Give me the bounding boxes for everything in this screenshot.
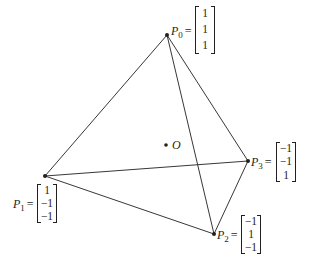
vertex-p3-label: P3= — [251, 156, 272, 171]
vertex-p2-subscript: 2 — [224, 234, 229, 244]
equals-sign: = — [265, 155, 272, 169]
vertex-p2-label: P2= — [217, 229, 238, 244]
edge-p0-p1 — [45, 35, 167, 176]
vertex-p0-matrix: 1 1 1 — [195, 6, 215, 54]
vertex-p1-matrix: 1 −1 −1 — [37, 184, 57, 223]
edge-p1-p3 — [45, 161, 248, 176]
matrix-cell: −1 — [276, 156, 296, 168]
vertex-p3-dot — [246, 159, 250, 163]
center-o-dot — [164, 143, 168, 147]
matrix-cell: −1 — [37, 198, 57, 210]
equals-sign: = — [27, 197, 34, 211]
center-o-label: O — [172, 139, 181, 151]
vertex-p1-subscript: 1 — [20, 203, 25, 213]
vertex-p0-label: P0= — [171, 25, 192, 40]
vertex-p1-dot — [43, 174, 47, 178]
matrix-cell: 1 — [195, 8, 215, 20]
equals-sign: = — [185, 24, 192, 38]
matrix-cell: 1 — [195, 40, 215, 52]
edge-p1-p2 — [45, 176, 214, 234]
tetrahedron-diagram — [0, 0, 313, 264]
vertex-p2-matrix: −1 1 −1 — [241, 215, 261, 254]
matrix-cell: −1 — [241, 216, 261, 228]
vertex-p1-label: P1= — [13, 198, 34, 213]
vertex-p2-dot — [212, 232, 216, 236]
edge-p0-p2 — [167, 35, 214, 234]
matrix-cell: 1 — [195, 24, 215, 36]
vertex-p3-matrix: −1 −1 1 — [276, 142, 296, 182]
matrix-cell: −1 — [241, 242, 261, 254]
matrix-cell: 1 — [276, 170, 296, 182]
vertex-p0-subscript: 0 — [178, 30, 183, 40]
vertex-p3-subscript: 3 — [258, 161, 263, 171]
matrix-cell: 1 — [241, 229, 261, 241]
matrix-cell: 1 — [37, 185, 57, 197]
matrix-cell: −1 — [37, 211, 57, 223]
equals-sign: = — [231, 228, 238, 242]
vertex-p0-dot — [165, 33, 169, 37]
matrix-cell: −1 — [276, 143, 296, 155]
